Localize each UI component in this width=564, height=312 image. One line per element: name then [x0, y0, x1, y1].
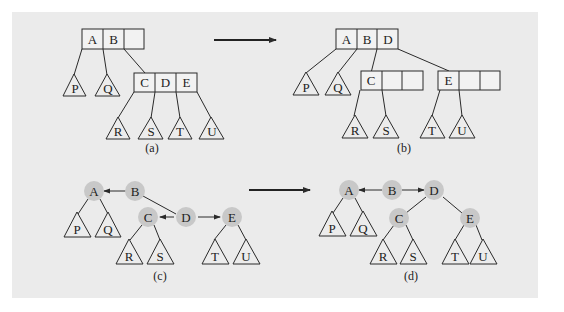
- node-b-label: B: [131, 184, 140, 199]
- subtree-p: P: [328, 221, 335, 236]
- subtree-u: U: [207, 124, 217, 139]
- tree-split-diagram: A B C D E P Q R S T U (a): [0, 0, 564, 312]
- caption-a: (a): [145, 141, 158, 155]
- key-d: D: [383, 32, 392, 47]
- subtree-p: P: [71, 81, 78, 96]
- subtree-u: U: [478, 249, 488, 264]
- key-c: C: [140, 75, 149, 90]
- subtree-t: T: [428, 123, 436, 138]
- subtree-t: T: [451, 249, 459, 264]
- subtree-q: Q: [358, 221, 368, 236]
- key-d: D: [161, 75, 170, 90]
- node-d-label: D: [181, 210, 190, 225]
- subtree-u: U: [457, 123, 467, 138]
- subtree-p: P: [73, 222, 80, 237]
- subtree-s: S: [147, 124, 154, 139]
- node-e-label: E: [228, 210, 236, 225]
- subtree-r: R: [379, 249, 388, 264]
- node-b-label: B: [388, 183, 397, 198]
- subtree-q: Q: [103, 81, 113, 96]
- subtree-q: Q: [103, 222, 113, 237]
- node-a-label: A: [89, 184, 99, 199]
- caption-c: (c): [153, 269, 166, 283]
- node-d-label: D: [429, 183, 438, 198]
- subtree-p: P: [302, 80, 309, 95]
- key-c: C: [367, 73, 376, 88]
- subtree-s: S: [382, 123, 389, 138]
- key-b: B: [109, 32, 118, 47]
- subtree-r: R: [114, 124, 123, 139]
- key-a: A: [342, 32, 352, 47]
- subtree-u: U: [241, 249, 251, 264]
- panel-b: [293, 29, 500, 138]
- subtree-t: T: [176, 124, 184, 139]
- subtree-q: Q: [333, 80, 343, 95]
- subtree-s: S: [156, 249, 163, 264]
- node-e-label: E: [466, 211, 474, 226]
- caption-d: (d): [404, 269, 418, 283]
- subtree-r: R: [351, 123, 360, 138]
- key-e: E: [445, 73, 453, 88]
- subtree-r: R: [125, 249, 134, 264]
- subtree-t: T: [211, 249, 219, 264]
- node-a-label: A: [344, 183, 354, 198]
- node-c-label: C: [395, 211, 404, 226]
- node-c-label: C: [144, 210, 153, 225]
- key-e: E: [183, 75, 191, 90]
- subtree-s: S: [409, 249, 416, 264]
- key-b: B: [363, 32, 372, 47]
- caption-b: (b): [397, 141, 411, 155]
- key-a: A: [88, 32, 98, 47]
